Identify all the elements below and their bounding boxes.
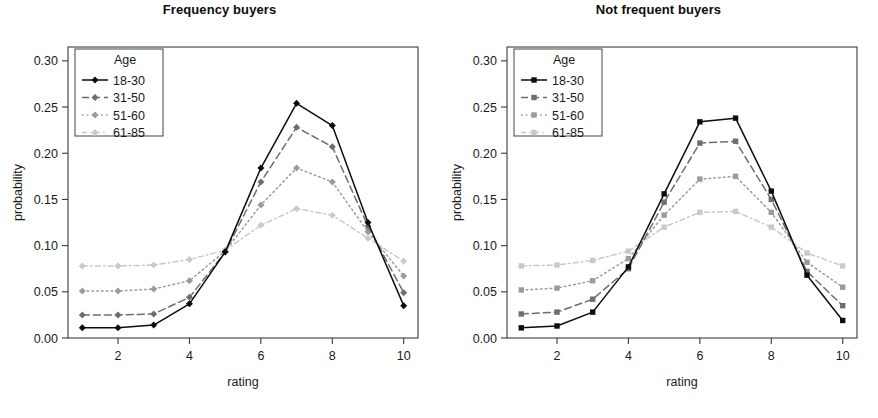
y-axis-tick-label: 0.10	[473, 239, 497, 253]
data-point-marker	[150, 310, 157, 317]
data-point-marker	[697, 119, 702, 124]
data-point-marker	[79, 324, 86, 331]
data-point-marker	[519, 263, 524, 268]
data-point-marker	[590, 297, 595, 302]
legend-title: Age	[114, 53, 136, 67]
data-point-marker	[257, 165, 264, 172]
data-point-marker	[590, 309, 595, 314]
data-point-marker	[531, 95, 536, 100]
y-axis-label: probability	[11, 163, 25, 221]
x-axis-tick-label: 4	[625, 349, 632, 363]
y-axis-tick-label: 0.10	[34, 239, 58, 253]
plot-left: 0.000.050.100.150.200.250.30246810rating…	[0, 0, 439, 418]
data-point-marker	[115, 262, 122, 269]
data-point-marker	[150, 322, 157, 329]
data-point-marker	[519, 311, 524, 316]
legend-label-18-30: 18-30	[552, 74, 584, 88]
data-point-marker	[769, 210, 774, 215]
series-line-61-85	[521, 211, 842, 266]
data-point-marker	[804, 250, 809, 255]
panel-frequency-buyers: Frequency buyers 0.000.050.100.150.200.2…	[0, 0, 439, 418]
x-axis-tick-label: 10	[836, 349, 850, 363]
x-axis-tick-label: 2	[554, 349, 561, 363]
legend-label-51-60: 51-60	[552, 109, 584, 123]
data-point-marker	[519, 287, 524, 292]
data-point-marker	[697, 140, 702, 145]
legend-title: Age	[553, 53, 575, 67]
data-point-marker	[804, 260, 809, 265]
data-point-marker	[531, 130, 536, 135]
data-point-marker	[531, 112, 536, 117]
x-axis-tick-label: 4	[186, 349, 193, 363]
data-point-marker	[531, 77, 536, 82]
data-point-marker	[769, 224, 774, 229]
legend-label-61-85: 61-85	[113, 126, 145, 140]
data-point-marker	[400, 302, 407, 309]
y-axis-tick-label: 0.05	[34, 285, 58, 299]
data-point-marker	[590, 258, 595, 263]
x-axis-tick-label: 6	[696, 349, 703, 363]
legend-label-51-60: 51-60	[113, 109, 145, 123]
data-point-marker	[329, 122, 336, 129]
data-point-marker	[554, 309, 559, 314]
x-axis-tick-label: 10	[397, 349, 411, 363]
data-point-marker	[79, 262, 86, 269]
y-axis-tick-label: 0.25	[34, 101, 58, 115]
legend-label-61-85: 61-85	[552, 126, 584, 140]
series-line-18-30	[521, 118, 842, 328]
data-point-marker	[115, 287, 122, 294]
legend-label-18-30: 18-30	[113, 74, 145, 88]
y-axis-tick-label: 0.30	[473, 54, 497, 68]
data-point-marker	[554, 285, 559, 290]
legend-label-31-50: 31-50	[552, 91, 584, 105]
series-line-51-60	[521, 176, 842, 290]
data-point-marker	[840, 303, 845, 308]
data-point-marker	[293, 205, 300, 212]
data-point-marker	[150, 286, 157, 293]
data-point-marker	[590, 278, 595, 283]
data-point-marker	[733, 174, 738, 179]
y-axis-tick-label: 0.15	[34, 193, 58, 207]
data-point-marker	[329, 143, 336, 150]
y-axis-tick-label: 0.05	[473, 285, 497, 299]
data-point-marker	[769, 188, 774, 193]
y-axis-tick-label: 0.00	[34, 332, 58, 346]
data-point-marker	[293, 100, 300, 107]
data-point-marker	[733, 209, 738, 214]
y-axis-tick-label: 0.20	[473, 147, 497, 161]
data-point-marker	[661, 191, 666, 196]
data-point-marker	[626, 248, 631, 253]
y-axis-tick-label: 0.15	[473, 193, 497, 207]
y-axis-tick-label: 0.25	[473, 101, 497, 115]
data-point-marker	[769, 197, 774, 202]
x-axis-tick-label: 6	[257, 349, 264, 363]
x-axis-label: rating	[666, 375, 697, 389]
data-point-marker	[554, 323, 559, 328]
x-axis-tick-label: 8	[768, 349, 775, 363]
data-point-marker	[150, 262, 157, 269]
y-axis-tick-label: 0.30	[34, 54, 58, 68]
data-point-marker	[626, 264, 631, 269]
data-point-marker	[733, 115, 738, 120]
data-point-marker	[329, 178, 336, 185]
data-point-marker	[661, 200, 666, 205]
panel-not-frequent-buyers: Not frequent buyers 0.000.050.100.150.20…	[439, 0, 878, 418]
data-point-marker	[329, 212, 336, 219]
data-point-marker	[554, 262, 559, 267]
data-point-marker	[840, 318, 845, 323]
series-line-61-85	[82, 209, 403, 266]
data-point-marker	[79, 311, 86, 318]
x-axis-tick-label: 8	[329, 349, 336, 363]
data-point-marker	[661, 212, 666, 217]
panel-title-right: Not frequent buyers	[439, 2, 878, 17]
data-point-marker	[697, 176, 702, 181]
data-point-marker	[115, 324, 122, 331]
y-axis-tick-label: 0.00	[473, 332, 497, 346]
series-line-31-50	[82, 127, 403, 315]
data-point-marker	[697, 210, 702, 215]
data-point-marker	[400, 258, 407, 265]
data-point-marker	[804, 272, 809, 277]
data-point-marker	[840, 284, 845, 289]
data-point-marker	[733, 139, 738, 144]
data-point-marker	[661, 224, 666, 229]
